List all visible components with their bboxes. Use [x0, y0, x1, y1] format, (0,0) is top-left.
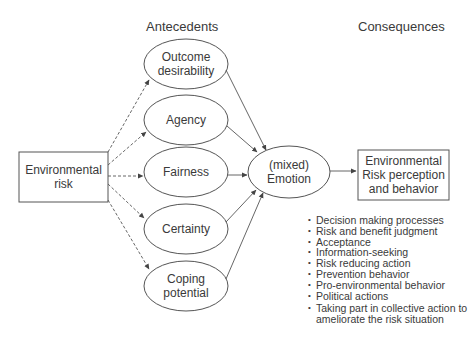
fairness-label: Fairness: [144, 165, 228, 179]
risk-perception-line2: Risk perception: [358, 168, 449, 182]
emotion-line1: (mixed): [248, 158, 330, 172]
dashed-arrows: [108, 80, 149, 269]
agency-label: Agency: [144, 113, 228, 127]
emotion-line2: Emotion: [248, 172, 330, 186]
certainty-label: Certainty: [144, 222, 228, 236]
coping-potential-line1: Coping: [144, 272, 228, 286]
consequence-item-continuation: ameliorate the risk situation: [308, 314, 467, 325]
outcome-desirability-line1: Outcome: [144, 50, 228, 64]
risk-perception-label: Environmental Risk perception and behavi…: [358, 154, 449, 196]
consequence-item: Pro-environmental behavior: [308, 280, 467, 291]
consequence-item: Risk and benefit judgment: [308, 226, 467, 237]
outcome-desirability-label: Outcome desirability: [144, 50, 228, 78]
fairness-line1: Fairness: [144, 165, 228, 179]
coping-potential-label: Coping potential: [144, 272, 228, 300]
dashed-arrow-coping: [108, 200, 149, 269]
outcome-desirability-line2: desirability: [144, 64, 228, 78]
emotion-label: (mixed) Emotion: [248, 158, 330, 186]
dashed-arrow-agency: [108, 132, 146, 165]
risk-perception-line1: Environmental: [358, 154, 449, 168]
arrow-outcome-to-emotion: [226, 70, 266, 150]
consequences-list: Decision making processes Risk and benef…: [308, 215, 467, 325]
risk-perception-line3: and behavior: [358, 182, 449, 196]
consequence-item: Political actions: [308, 291, 467, 302]
environmental-risk-label: Environmental risk: [19, 163, 108, 191]
dashed-arrow-certainty: [108, 184, 144, 218]
arrow-agency-to-emotion: [227, 126, 257, 152]
coping-potential-line2: potential: [144, 286, 228, 300]
environmental-risk-line1: Environmental: [19, 163, 108, 177]
heading-antecedents: Antecedents: [146, 19, 218, 34]
environmental-risk-line2: risk: [19, 177, 108, 191]
heading-consequences: Consequences: [358, 19, 445, 34]
arrow-certainty-to-emotion: [226, 190, 256, 222]
arrow-coping-to-emotion: [226, 193, 263, 279]
dashed-arrow-outcome: [108, 80, 149, 152]
agency-line1: Agency: [144, 113, 228, 127]
certainty-line1: Certainty: [144, 222, 228, 236]
